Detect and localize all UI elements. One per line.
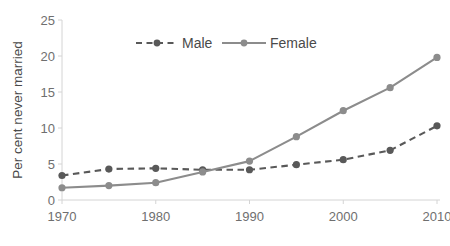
y-axis-tick-label: 0	[48, 193, 55, 208]
data-point	[433, 122, 440, 129]
x-axis-tick-label: 2010	[423, 209, 450, 224]
chart-legend: Male Female	[136, 35, 317, 51]
y-axis-title: Per cent never married	[10, 41, 25, 178]
series-group	[58, 54, 440, 192]
data-point	[340, 156, 347, 163]
x-axis-tick-group: 19701980199020002010	[48, 200, 450, 224]
chart-canvas: 0510152025 19701980199020002010 Per cent…	[0, 0, 450, 246]
y-axis-tick-label: 5	[48, 157, 55, 172]
data-point	[387, 147, 394, 154]
data-point	[199, 168, 206, 175]
y-axis-tick-label: 25	[41, 13, 55, 28]
y-axis-tick-label: 15	[41, 85, 55, 100]
series-male	[58, 122, 440, 179]
line-chart: 0510152025 19701980199020002010 Per cent…	[0, 0, 450, 246]
data-point	[246, 166, 253, 173]
y-axis-tick-label: 10	[41, 121, 55, 136]
x-axis-tick-label: 1970	[48, 209, 77, 224]
data-point	[387, 84, 394, 91]
data-point	[293, 161, 300, 168]
data-point	[340, 107, 347, 114]
data-point	[433, 54, 440, 61]
y-axis-tick-group: 0510152025	[41, 13, 62, 208]
legend-label-female[interactable]: Female	[270, 35, 317, 51]
data-point	[105, 182, 112, 189]
x-axis-tick-label: 1980	[141, 209, 170, 224]
data-point	[152, 165, 159, 172]
data-point	[246, 158, 253, 165]
data-point	[152, 179, 159, 186]
legend-label-male[interactable]: Male	[182, 35, 213, 51]
x-axis-tick-label: 2000	[329, 209, 358, 224]
data-point	[105, 165, 112, 172]
legend-marker-female	[241, 40, 248, 47]
data-point	[293, 133, 300, 140]
y-axis-tick-label: 20	[41, 49, 55, 64]
data-point	[58, 172, 65, 179]
data-point	[58, 184, 65, 191]
x-axis-tick-label: 1990	[235, 209, 264, 224]
legend-marker-male	[154, 40, 161, 47]
